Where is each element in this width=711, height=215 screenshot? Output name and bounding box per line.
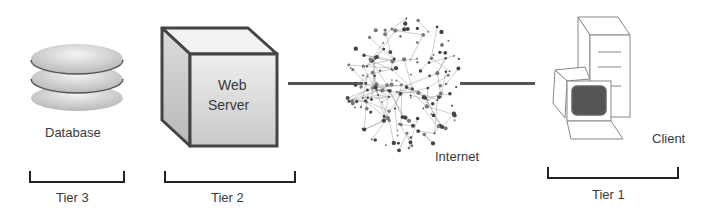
tier-3-label: Tier 3: [56, 190, 89, 205]
network-cloud-icon: [335, 10, 475, 160]
database-label: Database: [45, 125, 101, 140]
tier-3-bracket: [29, 171, 125, 183]
web-server-label-line2: Server: [208, 97, 249, 113]
tier-2-label: Tier 2: [211, 190, 244, 205]
tier-2-bracket: [164, 171, 296, 183]
internet-label: Internet: [435, 149, 479, 164]
desktop-computer-icon: [555, 15, 670, 140]
database-stack-icon: [30, 42, 124, 112]
tier-1-bracket: [547, 167, 679, 179]
client-label: Client: [652, 131, 685, 146]
web-server-label-line1: Web: [218, 77, 247, 93]
tier-1-label: Tier 1: [592, 187, 625, 202]
